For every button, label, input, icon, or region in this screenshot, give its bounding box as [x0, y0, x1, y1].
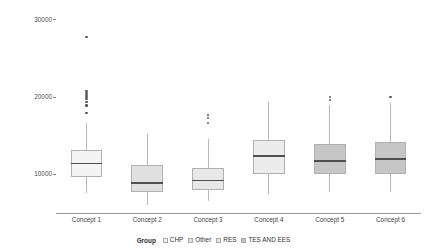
legend-item-2[interactable]: Other — [188, 236, 211, 244]
box-iqr — [314, 144, 346, 174]
outlier-point — [85, 90, 87, 92]
outlier-point — [207, 114, 209, 116]
boxplot-6[interactable] — [375, 8, 407, 213]
boxplot-4[interactable] — [253, 8, 285, 213]
x-axis-line — [56, 213, 421, 214]
boxplot-5[interactable] — [314, 8, 346, 213]
x-tick-label-4: Concept 4 — [239, 215, 300, 225]
box-iqr — [131, 165, 163, 192]
legend-label: RES — [223, 236, 236, 244]
legend-label: Other — [195, 236, 211, 244]
x-axis-ticks: Concept 1Concept 2Concept 3Concept 4Conc… — [56, 215, 421, 229]
outlier-point — [85, 101, 87, 103]
boxplot-1[interactable] — [71, 8, 103, 213]
y-tick-label: 10000 — [22, 170, 56, 177]
legend-swatch-icon — [163, 238, 168, 243]
outlier-point — [85, 96, 87, 98]
legend: Group CHPOtherRESTES AND EES — [0, 234, 427, 246]
x-tick-label-1: Concept 1 — [56, 215, 117, 225]
outlier-point — [389, 96, 391, 98]
median-line — [375, 158, 407, 160]
outlier-point — [207, 122, 209, 124]
y-tick-label: 20000 — [22, 93, 56, 100]
outlier-point — [85, 104, 87, 106]
legend-label: CHP — [170, 236, 184, 244]
legend-item-3[interactable]: RES — [216, 236, 236, 244]
outlier-point — [329, 99, 331, 101]
legend-swatch-icon — [216, 238, 221, 243]
boxplot-figure: Opex / Nominal IT Power [€/kW] 100002000… — [0, 0, 427, 250]
boxplot-3[interactable] — [192, 8, 224, 213]
plot-panel — [56, 8, 421, 213]
median-line — [71, 163, 103, 165]
outlier-point — [85, 98, 87, 100]
y-tick-label: 30000 — [22, 16, 56, 23]
outlier-point — [85, 112, 87, 114]
legend-label: TES AND EES — [248, 236, 290, 244]
outlier-point — [85, 36, 87, 38]
outlier-point — [207, 117, 209, 119]
median-line — [314, 160, 346, 162]
legend-swatch-icon — [188, 238, 193, 243]
median-line — [192, 180, 224, 182]
x-tick-label-2: Concept 2 — [117, 215, 178, 225]
median-line — [131, 182, 163, 184]
legend-item-1[interactable]: CHP — [163, 236, 184, 244]
outlier-point — [329, 96, 331, 98]
x-tick-label-6: Concept 6 — [360, 215, 421, 225]
x-tick-label-3: Concept 3 — [178, 215, 239, 225]
outlier-point — [85, 92, 87, 94]
legend-item-4[interactable]: TES AND EES — [241, 236, 290, 244]
y-axis-ticks: 100002000030000 — [16, 0, 56, 213]
x-tick-label-5: Concept 5 — [299, 215, 360, 225]
boxplot-2[interactable] — [131, 8, 163, 213]
legend-title: Group — [137, 237, 156, 244]
legend-swatch-icon — [241, 238, 246, 243]
median-line — [253, 155, 285, 157]
